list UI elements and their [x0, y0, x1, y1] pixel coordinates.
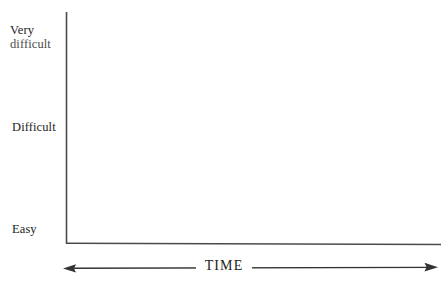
x-axis-label-text: TIME — [196, 258, 253, 273]
y-axis-tick-very-difficult: Very difficult — [10, 8, 51, 66]
chart-figure: Very difficult Difficult Easy TIME — [0, 0, 448, 290]
y-axis-tick-very-difficult-line1: Very — [10, 23, 34, 37]
axis-lines-graphic — [0, 0, 448, 290]
y-axis-tick-very-difficult-line2: difficult — [10, 37, 51, 52]
x-axis-line — [66, 243, 441, 244]
y-axis-tick-easy: Easy — [12, 222, 37, 237]
x-axis-label: TIME — [0, 258, 448, 274]
y-axis-tick-difficult: Difficult — [12, 120, 56, 135]
